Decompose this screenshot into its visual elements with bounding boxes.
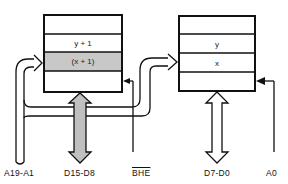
label-address-bus: A19-A1 [4, 168, 34, 178]
low-bank-cell-2: x [215, 59, 219, 68]
label-bhe: BHE [132, 168, 150, 178]
data-low-bus-arrow [206, 92, 228, 163]
label-data-low: D7-D0 [204, 168, 230, 178]
low-bank-cell-1: y [215, 40, 219, 49]
high-bank-cell-1: y + 1 [74, 39, 92, 48]
label-data-high: D15-D8 [64, 168, 95, 178]
address-bus-to-high-bank [16, 55, 42, 164]
data-high-bus-arrow [69, 93, 91, 163]
label-a0: A0 [266, 168, 277, 178]
bhe-line [123, 78, 133, 152]
high-bank: y + 1 (x + 1) [44, 15, 122, 92]
low-bank: y x [179, 16, 255, 91]
high-bank-cell-2: (x + 1) [72, 57, 95, 66]
memory-diagram: y + 1 (x + 1) y x [0, 0, 288, 184]
a0-line [256, 77, 274, 152]
